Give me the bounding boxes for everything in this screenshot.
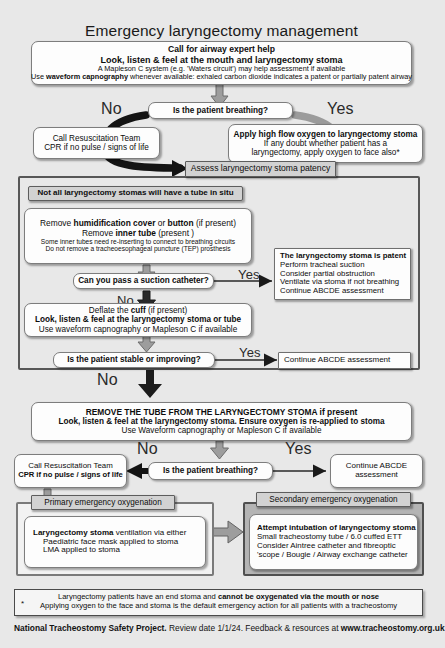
- oxygen-top-line2: If any doubt whether patient has a: [264, 139, 387, 148]
- secondary-oxygenation-content-box: Attempt intubation of laryngectomy stoma…: [249, 514, 418, 570]
- footer-org: National Tracheostomy Safety Project.: [14, 623, 167, 633]
- call-help-line1: Call for airway expert help: [168, 45, 275, 55]
- page-title: Emergency laryngectomy management: [0, 22, 443, 40]
- apply-high-flow-oxygen-box: Apply high flow oxygen to laryngectomy s…: [228, 124, 423, 163]
- footnote-star: *: [21, 599, 24, 608]
- continue-abcde-box-2: Continue ABCDE assessment: [330, 454, 423, 488]
- decision3-yes-label: Yes: [239, 345, 261, 360]
- decision1-question: Is the patient breathing?: [173, 106, 268, 115]
- call-resuscitation-team-box-bottom: Call Resuscitation Team CPR if no pulse …: [14, 454, 127, 488]
- continue-abcde-1-label: Continue ABCDE assessment: [284, 356, 390, 365]
- decision4-yes-label: Yes: [285, 440, 312, 458]
- remove-humidification-box: Remove humidification cover or button (i…: [24, 208, 252, 264]
- deflate-line3: Use waveform capnography or Mapleson C i…: [39, 325, 237, 334]
- decision-is-patient-breathing-1: Is the patient breathing?: [148, 102, 293, 119]
- continue-abcde-box-1: Continue ABCDE assessment: [278, 352, 411, 369]
- decision1-yes-label: Yes: [327, 100, 354, 118]
- not-all-stomas-note: Not all laryngectomy stomas will have a …: [28, 186, 243, 201]
- oxygen-top-line1: Apply high flow oxygen to laryngectomy s…: [234, 130, 418, 139]
- stoma-patent-box: The laryngectomy stoma is patent Perform…: [274, 248, 411, 300]
- deflate-line1: Deflate the cuff (if present): [89, 306, 187, 315]
- footnote-line2: Applying oxygen to the face and stoma is…: [15, 602, 422, 611]
- footer-url[interactable]: www.tracheostomy.org.uk: [341, 623, 445, 633]
- remove-line2: Remove inner tube (present ): [82, 229, 194, 238]
- decision1-no-label: No: [101, 100, 122, 118]
- continue-abcde-2-line2: assessment: [355, 471, 398, 480]
- not-all-tubes-label: Not all laryngectomy stomas will have a …: [37, 189, 233, 198]
- call-resuscitation-team-box-top: Call Resuscitation Team CPR if no pulse …: [33, 127, 160, 159]
- decision3-question: Is the patient stable or improving?: [67, 355, 201, 364]
- resus-bottom-line2: CPR if no pulse / signs of life: [18, 471, 123, 480]
- footnote-box: * Laryngectomy patients have an end stom…: [14, 589, 423, 616]
- decision2-question: Can you pass a suction catheter?: [78, 276, 209, 285]
- decision2-yes-label: Yes: [238, 267, 260, 282]
- decision4-question: Is the patient breathing?: [163, 466, 258, 475]
- decision-stable-or-improving: Is the patient stable or improving?: [53, 352, 215, 368]
- deflate-line2: Look, listen & feel at the laryngectomy …: [35, 315, 241, 324]
- primary-oxygenation-content-box: Laryngectomy stoma ventilation via eithe…: [24, 516, 206, 568]
- resus-top-line1: Call Resuscitation Team: [53, 134, 141, 143]
- footer-credit: National Tracheostomy Safety Project. Re…: [14, 623, 429, 633]
- arrow-primary-to-secondary: [213, 521, 243, 543]
- oxygen-top-line3: laryngectomy, apply oxygen to face also*: [251, 148, 399, 157]
- patent-line5: Continue ABCDE assessment: [280, 287, 384, 296]
- remove-tube-box: REMOVE THE TUBE FROM THE LARYNGECTOMY ST…: [31, 402, 412, 441]
- remove-line3: Some inner tubes need re-inserting to co…: [41, 238, 235, 245]
- decision3-no-label: No: [97, 371, 118, 389]
- secondary-line4: 'scope / Bougie / Airway exchange cathet…: [257, 551, 408, 560]
- secondary-header-label: Secondary emergency oxygenation: [269, 495, 397, 504]
- call-help-line4: Use waveform capnography whenever availa…: [31, 73, 412, 81]
- footer-review: Review date 1/1/24. Feedback & resources…: [167, 623, 341, 633]
- deflate-cuff-box: Deflate the cuff (if present) Look, list…: [24, 303, 252, 337]
- remove-tube-line3: Use Waveform capnography or Mapleson C i…: [122, 426, 322, 435]
- remove-tube-line1: REMOVE THE TUBE FROM THE LARYNGECTOMY ST…: [86, 408, 358, 417]
- primary-line3: LMA applied to stoma: [33, 546, 120, 555]
- decision-suction-catheter: Can you pass a suction catheter?: [73, 273, 214, 289]
- primary-header-label: Primary emergency oxygenation: [44, 498, 161, 507]
- remove-line4: Do not remove a tracheoesophageal punctu…: [45, 245, 230, 252]
- primary-panel-header: Primary emergency oxygenation: [31, 495, 175, 510]
- remove-tube-line2: Look, listen & feel at the laryngectomy …: [58, 417, 384, 426]
- decision4-no-label: No: [137, 440, 158, 458]
- resus-top-line2: CPR if no pulse / signs of life: [44, 143, 149, 152]
- call-for-help-box: Call for airway expert help Look, listen…: [31, 41, 412, 85]
- arrow-frame-to-removetube: [138, 370, 162, 398]
- arrow-removetube-to-decision4: [211, 441, 229, 459]
- assess-header-label: Assess laryngectomy stoma patency: [191, 164, 330, 174]
- secondary-panel-header: Secondary emergency oxygenation: [256, 492, 411, 507]
- decision-is-patient-breathing-2: Is the patient breathing?: [148, 462, 273, 480]
- assess-stoma-patency-header: Assess laryngectomy stoma patency: [185, 161, 336, 177]
